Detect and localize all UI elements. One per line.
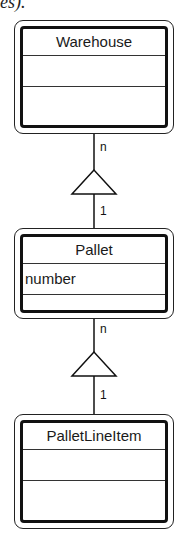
multiplicity-label: n [100,322,107,336]
operations-compartment [23,481,165,520]
class-box-warehouse: Warehouse [14,20,174,134]
multiplicity-label: 1 [100,204,107,218]
operations-compartment [23,87,165,125]
attributes-compartment [23,56,165,87]
attribute-number: number [23,264,165,295]
attributes-compartment [23,450,165,481]
operations-compartment [23,295,165,310]
aggregation-triangle-icon [72,170,116,194]
multiplicity-label: 1 [100,388,107,402]
multiplicity-label: n [100,140,107,154]
class-name: Warehouse [23,29,165,56]
class-box-palletlineitem: PalletLineItem [14,414,174,529]
class-box-pallet: Pallet number [14,228,174,319]
class-name: Pallet [23,237,165,264]
class-name: PalletLineItem [23,423,165,450]
aggregation-triangle-icon [72,352,116,376]
